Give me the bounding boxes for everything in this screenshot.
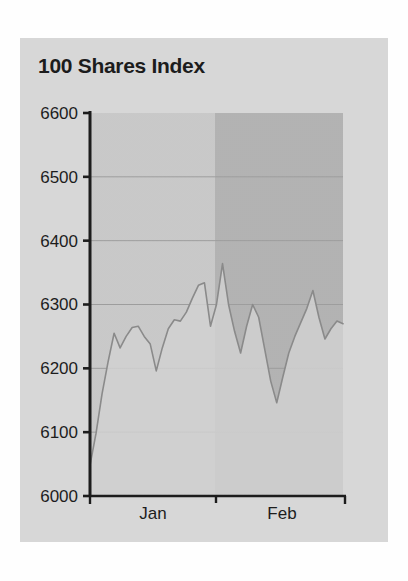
chart-panel: 100 Shares Index xyxy=(20,38,388,542)
y-tick-label-6000: 6000 xyxy=(40,487,78,506)
y-tick-label-6500: 6500 xyxy=(40,168,78,187)
y-tick-label-6600: 6600 xyxy=(40,104,78,123)
page-background: 100 Shares Index xyxy=(0,0,408,581)
y-tick-label-6100: 6100 xyxy=(40,423,78,442)
x-tick-label-feb: Feb xyxy=(267,504,296,523)
y-tick-label-6200: 6200 xyxy=(40,359,78,378)
y-tick-label-6300: 6300 xyxy=(40,295,78,314)
line-chart: 6600 6500 6400 6300 6200 6100 6000 Jan F… xyxy=(20,38,388,542)
x-tick-label-jan: Jan xyxy=(139,504,166,523)
y-tick-label-6400: 6400 xyxy=(40,232,78,251)
